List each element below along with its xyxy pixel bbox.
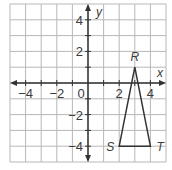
y-axis-label: y — [95, 5, 103, 19]
axes — [10, 4, 166, 162]
x-tick-label: 2 — [116, 86, 123, 101]
x-axis-label: x — [156, 66, 164, 80]
x-tick-label: 0 — [77, 86, 84, 101]
x-tick-label: −4 — [18, 86, 33, 101]
y-tick-label: −4 — [68, 139, 83, 154]
vertex-label-r: R — [130, 50, 139, 64]
coordinate-plane: −4−202442−2−4xy RST — [0, 0, 172, 170]
tick-labels: −4−202442−2−4xy — [18, 5, 164, 154]
y-tick-label: 4 — [76, 13, 83, 28]
y-axis-up-arrow-icon — [85, 4, 91, 11]
x-tick-label: 4 — [147, 86, 154, 101]
x-axis-left-arrow-icon — [10, 80, 17, 86]
x-tick-label: −2 — [49, 86, 64, 101]
vertex-label-s: S — [106, 140, 114, 154]
x-axis-right-arrow-icon — [159, 80, 166, 86]
vertex-label-t: T — [156, 140, 165, 154]
y-tick-label: 2 — [76, 44, 83, 59]
y-axis-down-arrow-icon — [85, 155, 91, 162]
y-tick-label: −2 — [68, 108, 83, 123]
